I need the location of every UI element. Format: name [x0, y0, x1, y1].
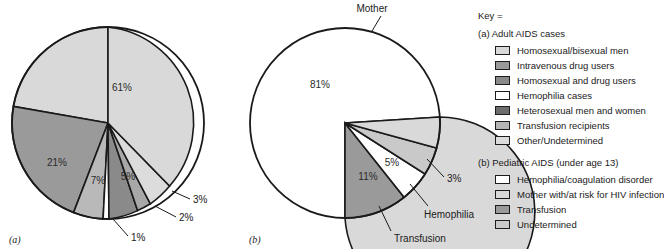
legend: Key = (a) Adult AIDS cases Homosexual/bi…: [478, 10, 654, 246]
legend-item-mother-at-risk[interactable]: Mother with/at risk for HIV infection: [495, 187, 654, 202]
pie-b-value-11: 11%: [358, 171, 377, 182]
pie-a-value-61: 61%: [112, 82, 132, 93]
legend-swatch-icon: [495, 136, 510, 145]
legend-item-label: Transfusion: [517, 205, 566, 215]
pie-a-leader-2: [155, 206, 176, 217]
panel-a-id: (a): [9, 234, 21, 246]
legend-swatch-icon: [495, 121, 510, 130]
legend-item-undetermined[interactable]: Undetermined: [495, 217, 654, 232]
legend-swatch-icon: [495, 61, 510, 70]
pie-a-value-5: 5%: [121, 171, 136, 182]
legend-group-a-title: (a) Adult AIDS cases: [478, 28, 654, 39]
legend-item-label: Hemophilia cases: [517, 91, 592, 101]
legend-item-label: Transfusion recipients: [517, 121, 610, 131]
legend-item-label: Mother with/at risk for HIV infection: [517, 190, 664, 200]
pie-a-callout-1: 1%: [131, 232, 146, 243]
legend-swatch-icon: [495, 175, 510, 184]
legend-swatch-icon: [495, 205, 510, 214]
pie-chart-a: 61% 21% 7% 5% 1% 2% 3% (a): [9, 27, 208, 246]
pie-b-callout-3: 3%: [447, 173, 462, 184]
legend-item-label: Homosexual/bisexual men: [517, 46, 628, 56]
legend-item-homosexual-and-drug-users[interactable]: Homosexual and drug users: [495, 73, 654, 88]
legend-item-homosexual-bisexual-men[interactable]: Homosexual/bisexual men: [495, 43, 654, 58]
pie-a-value-21: 21%: [47, 157, 67, 168]
legend-group-b-title: (b) Pediatric AIDS (under age 13): [478, 157, 654, 168]
legend-item-transfusion[interactable]: Transfusion: [495, 202, 654, 217]
legend-item-label: Homosexual and drug users: [517, 76, 636, 86]
legend-swatch-icon: [495, 190, 510, 199]
legend-swatch-icon: [495, 91, 510, 100]
pie-b-callout-hemophilia: Hemophilia: [424, 209, 474, 220]
legend-swatch-icon: [495, 76, 510, 85]
legend-item-heterosexual-men-and-women[interactable]: Heterosexual men and women: [495, 103, 654, 118]
pie-a-leader-1: [113, 219, 128, 236]
legend-item-intravenous-drug-users[interactable]: Intravenous drug users: [495, 58, 654, 73]
pie-b-leader-mother: [372, 16, 381, 31]
pie-a-callout-3: 3%: [193, 194, 208, 205]
pie-b-value-81: 81%: [310, 79, 330, 90]
legend-item-other-undetermined[interactable]: Other/Undetermined: [495, 133, 654, 148]
legend-key-title: Key =: [478, 10, 654, 21]
legend-item-hemophilia-coagulation-disorder[interactable]: Hemophilia/coagulation disorder: [495, 172, 654, 187]
legend-item-label: Other/Undetermined: [517, 136, 603, 146]
legend-swatch-icon: [495, 106, 510, 115]
legend-swatch-icon: [495, 46, 510, 55]
pie-b-callout-mother: Mother: [356, 3, 388, 14]
legend-item-label: Hemophilia/coagulation disorder: [517, 175, 653, 185]
legend-item-label: Heterosexual men and women: [517, 106, 646, 116]
pie-a-value-7: 7%: [91, 175, 106, 186]
pie-a-leader-3: [172, 191, 190, 199]
legend-item-transfusion-recipients[interactable]: Transfusion recipients: [495, 118, 654, 133]
legend-swatch-icon: [495, 220, 510, 229]
legend-item-label: Undetermined: [517, 220, 577, 230]
pie-b-callout-transfusion: Transfusion: [394, 233, 446, 244]
legend-item-hemophilia-cases[interactable]: Hemophilia cases: [495, 88, 654, 103]
legend-group-divider: [478, 148, 654, 157]
pie-a-callout-2: 2%: [179, 212, 194, 223]
panel-b-id: (b): [249, 234, 261, 246]
pie-b-value-5: 5%: [385, 157, 400, 168]
legend-item-label: Intravenous drug users: [517, 61, 614, 71]
